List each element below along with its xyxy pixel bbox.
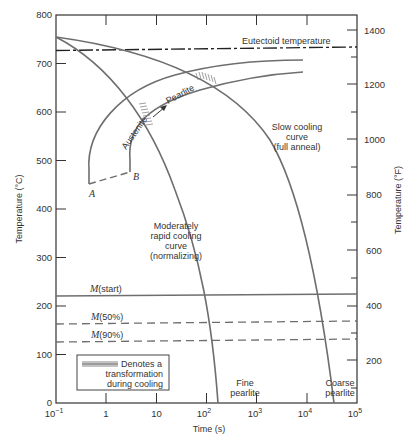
- point-b-label: B: [133, 171, 139, 182]
- y-right-tick-1000: 1000: [364, 134, 385, 145]
- x-axis: [106, 15, 307, 403]
- legend-text-2: transformation: [105, 369, 163, 379]
- legend: Denotes a transformation during cooling: [77, 355, 169, 390]
- coarse-pearlite-label-2: pearlite: [325, 388, 355, 398]
- y-right-title: Temperature (°F): [393, 166, 403, 234]
- legend-text-1: Denotes a: [121, 359, 162, 369]
- x-title: Time (s): [193, 424, 226, 434]
- slow-label-2: curve: [286, 132, 308, 142]
- fine-pearlite-label-2: pearlite: [230, 388, 260, 398]
- cooling-curve-chart: 0 100 200 300 400 500 600 700 800 Temper…: [0, 0, 413, 437]
- y-tick-400: 400: [36, 203, 52, 214]
- y-left-title: Temperature (°C): [14, 174, 24, 243]
- m-50-label: M(50%): [90, 311, 123, 322]
- x-tick-1: 1: [103, 408, 108, 419]
- y-right-axis: [347, 30, 357, 388]
- x-tick-100000: 105: [348, 407, 363, 419]
- y-right-tick-800: 800: [366, 189, 382, 200]
- x-tick-1000: 103: [248, 407, 263, 419]
- slow-label-3: (full anneal): [273, 142, 320, 152]
- y-right-tick-200: 200: [366, 355, 382, 366]
- y-left-axis: [56, 64, 66, 355]
- y-tick-800: 800: [36, 9, 52, 20]
- fine-pearlite-label-1: Fine: [236, 378, 254, 388]
- moderate-label-2: rapid cooling: [150, 231, 201, 241]
- eutectoid-label: Eutectoid temperature: [242, 36, 331, 46]
- y-tick-700: 700: [36, 58, 52, 69]
- x-tick-100: 102: [197, 407, 212, 419]
- ab-dashed-line: [89, 172, 130, 184]
- y-tick-300: 300: [36, 252, 52, 263]
- m-start-line: [56, 294, 357, 296]
- point-a-label: A: [88, 188, 96, 199]
- y-tick-200: 200: [36, 300, 52, 311]
- eutectoid-line: [56, 47, 357, 51]
- y-left-tick-labels: 0 100 200 300 400 500 600 700 800: [36, 9, 52, 408]
- y-right-tick-600: 600: [366, 245, 382, 256]
- austenite-label: Austenite: [119, 115, 149, 151]
- y-tick-100: 100: [36, 349, 52, 360]
- x-tick-0.1: 10−1: [45, 407, 64, 419]
- m-start-label: M(start): [89, 283, 122, 294]
- y-right-tick-400: 400: [366, 300, 382, 311]
- moderate-label-1: Moderately: [154, 221, 199, 231]
- y-right-tick-labels: 200 400 600 800 1000 1200 1400: [364, 25, 385, 366]
- moderate-label-3: curve: [165, 241, 187, 251]
- y-right-tick-1400: 1400: [364, 25, 385, 36]
- y-tick-0: 0: [47, 397, 52, 408]
- coarse-pearlite-label-1: Coarse: [325, 378, 354, 388]
- y-tick-600: 600: [36, 106, 52, 117]
- y-right-tick-1200: 1200: [364, 79, 385, 90]
- y-tick-500: 500: [36, 155, 52, 166]
- pearlite-label: Pearlite: [164, 83, 196, 106]
- x-tick-labels: 10−1 1 10 102 103 104 105: [45, 407, 363, 419]
- x-tick-10000: 104: [298, 407, 313, 419]
- m-90-label: M(90%): [90, 329, 123, 340]
- plot-frame: [56, 15, 357, 403]
- slow-label-1: Slow cooling: [272, 122, 323, 132]
- x-tick-10: 10: [151, 408, 162, 419]
- legend-text-3: during cooling: [107, 379, 163, 389]
- moderate-label-4: (normalizing): [150, 251, 202, 261]
